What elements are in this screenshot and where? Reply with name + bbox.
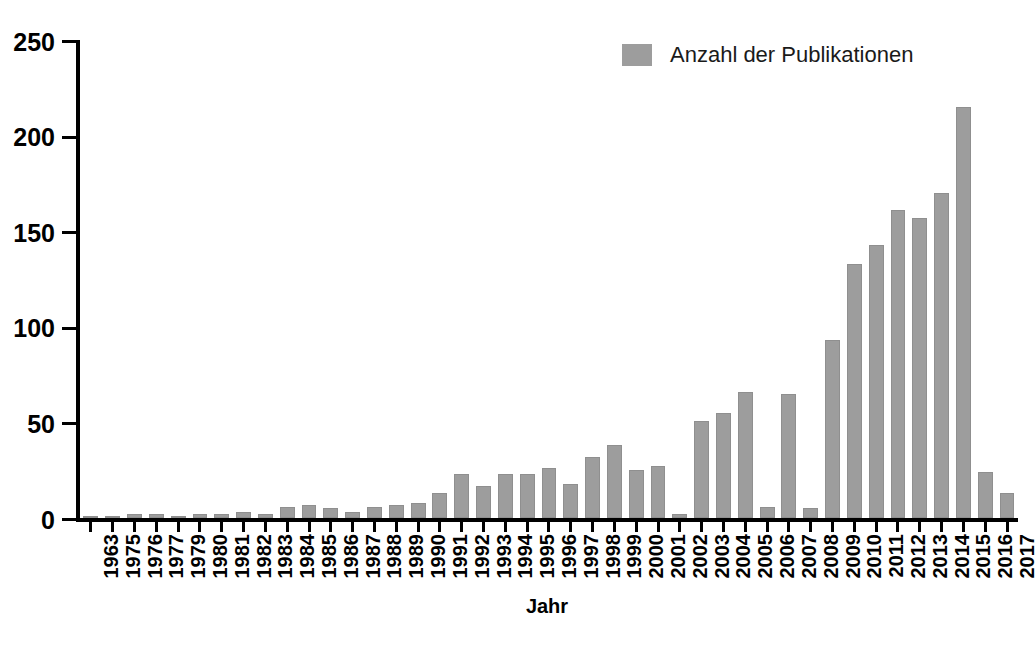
x-axis-label-2017: 2017: [1017, 534, 1036, 579]
bar-2009: [825, 340, 840, 518]
x-tick-slot: [473, 518, 495, 532]
x-tick-slot: [255, 518, 277, 532]
x-label-slot: 1993: [473, 534, 495, 596]
x-axis-tick-2006: [766, 518, 769, 532]
bar-2017: [1000, 493, 1015, 518]
x-tick-slot: [189, 518, 211, 532]
x-label-slot: 2003: [691, 534, 713, 596]
x-tick-slot: [713, 518, 735, 532]
x-axis-tick-1985: [308, 518, 311, 532]
x-label-slot: 1977: [145, 534, 167, 596]
bar-slot: [124, 40, 146, 518]
x-axis-tick-2008: [809, 518, 812, 532]
x-tick-slot: [320, 518, 342, 532]
x-tick-slot: [887, 518, 909, 532]
bar-2012: [891, 210, 906, 518]
x-tick-slot: [800, 518, 822, 532]
bar-slot: [80, 40, 102, 518]
x-axis-tick-labels: 1963197519761977197919801981198219831984…: [80, 534, 1018, 596]
bar-1998: [585, 457, 600, 518]
bar-slot: [102, 40, 124, 518]
x-tick-slot: [451, 518, 473, 532]
x-axis-tick-1989: [395, 518, 398, 532]
x-axis-tick-2012: [896, 518, 899, 532]
x-axis-tick-1975: [111, 518, 114, 532]
x-axis-tick-1991: [438, 518, 441, 532]
x-label-slot: 2011: [865, 534, 887, 596]
bar-1996: [542, 468, 557, 518]
bar-slot: [451, 40, 473, 518]
publications-bar-chart: Anzahl der Publikationen 250200150100500…: [0, 0, 1036, 646]
x-label-slot: 2005: [734, 534, 756, 596]
x-label-slot: 1998: [582, 534, 604, 596]
x-tick-slot: [974, 518, 996, 532]
bar-slot: [931, 40, 953, 518]
x-tick-slot: [778, 518, 800, 532]
x-tick-slot: [516, 518, 538, 532]
x-tick-slot: [909, 518, 931, 532]
bar-1991: [432, 493, 447, 518]
bar-slot: [996, 40, 1018, 518]
x-label-slot: 1995: [516, 534, 538, 596]
x-tick-slot: [276, 518, 298, 532]
x-label-slot: 1984: [276, 534, 298, 596]
bar-2015: [956, 107, 971, 518]
bar-slot: [909, 40, 931, 518]
x-tick-slot: [756, 518, 778, 532]
x-tick-slot: [494, 518, 516, 532]
x-tick-slot: [647, 518, 669, 532]
bar-2001: [651, 466, 666, 518]
bar-series-publications: [80, 40, 1018, 518]
bar-slot: [538, 40, 560, 518]
x-label-slot: 1990: [407, 534, 429, 596]
bar-2007: [781, 394, 796, 518]
x-axis-tick-1997: [569, 518, 572, 532]
x-label-slot: 2014: [931, 534, 953, 596]
x-label-slot: 2001: [647, 534, 669, 596]
x-tick-slot: [604, 518, 626, 532]
x-tick-slot: [429, 518, 451, 532]
x-tick-slot: [145, 518, 167, 532]
x-axis-tick-2013: [918, 518, 921, 532]
x-label-slot: 2015: [953, 534, 975, 596]
x-axis-tick-2001: [657, 518, 660, 532]
x-tick-slot: [80, 518, 102, 532]
bar-1999: [607, 445, 622, 518]
y-axis-tick-0: 0: [62, 518, 76, 521]
x-tick-slot: [582, 518, 604, 532]
bar-1984: [280, 507, 295, 518]
x-axis-title: Jahr: [76, 595, 1018, 618]
plot-area: 250200150100500: [76, 40, 1018, 518]
bar-1995: [520, 474, 535, 518]
x-tick-slot: [865, 518, 887, 532]
bar-slot: [189, 40, 211, 518]
x-tick-slot: [102, 518, 124, 532]
bar-slot: [385, 40, 407, 518]
bar-slot: [734, 40, 756, 518]
bar-1993: [476, 486, 491, 519]
bar-1990: [411, 503, 426, 518]
x-axis-tick-1990: [417, 518, 420, 532]
x-label-slot: 1994: [494, 534, 516, 596]
x-tick-slot: [124, 518, 146, 532]
x-axis-tick-1998: [591, 518, 594, 532]
bar-slot: [255, 40, 277, 518]
x-axis-tick-1984: [286, 518, 289, 532]
x-tick-slot: [931, 518, 953, 532]
bar-slot: [407, 40, 429, 518]
bar-slot: [516, 40, 538, 518]
x-tick-slot: [538, 518, 560, 532]
x-label-slot: 2000: [625, 534, 647, 596]
x-axis-tick-1963: [89, 518, 92, 532]
x-tick-slot: [560, 518, 582, 532]
x-axis-tick-1993: [482, 518, 485, 532]
x-axis-tick-1982: [242, 518, 245, 532]
x-label-slot: 1999: [604, 534, 626, 596]
bar-slot: [167, 40, 189, 518]
x-axis-tick-2007: [787, 518, 790, 532]
bar-slot: [865, 40, 887, 518]
x-label-slot: 1987: [342, 534, 364, 596]
bar-slot: [298, 40, 320, 518]
bar-1994: [498, 474, 513, 518]
bar-slot: [800, 40, 822, 518]
